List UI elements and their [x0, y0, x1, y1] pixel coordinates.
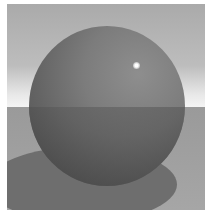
render-scene: Rendered glossy grey sphere on a flat pl… [7, 4, 205, 210]
sphere-reflection-lower [29, 107, 185, 186]
specular-highlight [133, 62, 140, 69]
